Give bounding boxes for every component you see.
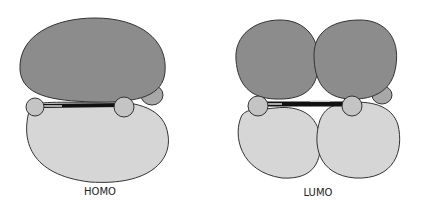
lumo-lower-left-lobe xyxy=(238,107,320,178)
lumo-orbital xyxy=(236,20,400,178)
homo-atom-right xyxy=(114,97,134,117)
lumo-label: LUMO xyxy=(278,187,358,198)
homo-upper-lobe xyxy=(20,18,165,102)
homo-label: HOMO xyxy=(60,186,140,197)
orbital-diagram xyxy=(0,0,421,210)
lumo-upper-left-lobe xyxy=(236,20,319,99)
homo-lower-lobe xyxy=(27,102,169,183)
homo-atom-left xyxy=(26,98,44,116)
lumo-atom-right xyxy=(342,96,362,116)
lumo-upper-right-lobe xyxy=(314,20,397,99)
homo-orbital xyxy=(20,18,169,182)
lumo-atom-left xyxy=(248,96,268,116)
